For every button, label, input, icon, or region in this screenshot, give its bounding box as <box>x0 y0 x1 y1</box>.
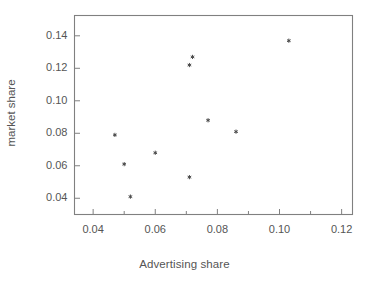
data-point <box>287 39 291 43</box>
x-axis-tick-label: 0.12 <box>322 223 362 235</box>
y-axis-tick-label: 0.10 <box>32 94 68 106</box>
scatter-chart: market share Advertising share 0.040.060… <box>0 0 369 291</box>
x-axis-tick-label: 0.08 <box>197 223 237 235</box>
x-axis-tick-label: 0.10 <box>260 223 300 235</box>
data-point <box>206 118 210 122</box>
data-point <box>113 133 117 137</box>
x-axis-tick-label: 0.06 <box>135 223 175 235</box>
data-point <box>122 162 126 166</box>
x-axis-tick-label: 0.04 <box>73 223 113 235</box>
y-axis-tick-label: 0.06 <box>32 159 68 171</box>
data-point <box>188 175 192 179</box>
data-point <box>153 151 157 155</box>
x-axis-title: Advertising share <box>0 258 369 270</box>
y-axis-tick-label: 0.08 <box>32 126 68 138</box>
y-axis-tick-label: 0.14 <box>32 29 68 41</box>
data-point <box>191 55 195 59</box>
y-axis-title: market share <box>5 79 17 146</box>
plot-frame <box>75 16 353 215</box>
y-axis-tick-label: 0.04 <box>32 191 68 203</box>
data-point <box>234 130 238 134</box>
plot-canvas <box>0 0 369 291</box>
y-axis-tick-label: 0.12 <box>32 61 68 73</box>
data-point <box>188 63 192 67</box>
y-axis-title-container: market share <box>0 0 22 225</box>
data-point <box>129 195 133 199</box>
